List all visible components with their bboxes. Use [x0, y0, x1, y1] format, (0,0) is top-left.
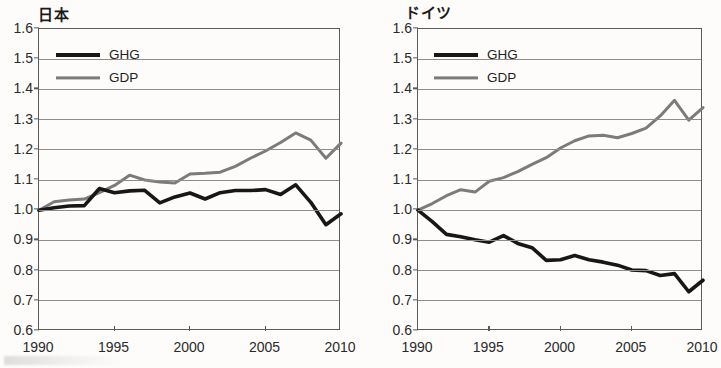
legend-item-ghg: GHG [56, 46, 140, 64]
y-axis-tick-label: 1.2 [380, 141, 412, 157]
y-axis-tick-label: 1.5 [380, 50, 412, 66]
chart-panel-germany: ドイツ GHGGDP 1.61.51.41.31.21.11.00.90.80.… [360, 0, 720, 368]
gridline [418, 240, 701, 241]
x-axis-tick-mark [560, 326, 561, 331]
y-axis-tick-label: 1.4 [1, 80, 33, 96]
series-line-ghg [418, 210, 703, 292]
y-axis-tick-mark [34, 88, 39, 89]
gridline [39, 270, 339, 271]
gridline [39, 240, 339, 241]
y-axis-tick-mark [34, 299, 39, 300]
y-axis-tick-label: 0.6 [1, 322, 33, 338]
y-axis-tick-mark [413, 118, 418, 119]
y-axis-tick-label: 0.9 [1, 231, 33, 247]
x-axis-tick-mark [631, 326, 632, 331]
legend-label-gdp: GDP [109, 71, 138, 85]
x-axis-tick-mark [189, 326, 190, 331]
legend-label-gdp: GDP [487, 71, 516, 85]
y-axis-tick-mark [34, 209, 39, 210]
y-axis-tick-label: 1.4 [380, 80, 412, 96]
y-axis-tick-label: 1.1 [380, 171, 412, 187]
y-axis-tick-mark [34, 269, 39, 270]
y-axis-tick-mark [34, 329, 39, 330]
y-axis-tick-mark [413, 269, 418, 270]
x-axis-tick-label: 2000 [544, 339, 575, 355]
x-axis-tick-mark [114, 326, 115, 331]
y-axis-tick-label: 1.0 [380, 201, 412, 217]
y-axis-tick-label: 1.3 [380, 111, 412, 127]
chart-panel-japan: 日本 GHGGDP 1.61.51.41.31.21.11.00.90.80.7… [0, 0, 360, 368]
gridline [418, 119, 701, 120]
gridline [39, 180, 339, 181]
gridline [418, 180, 701, 181]
x-axis-tick-label: 1990 [22, 339, 53, 355]
y-axis-tick-label: 0.9 [380, 231, 412, 247]
x-axis-tick-label: 1995 [98, 339, 129, 355]
y-axis-tick-mark [413, 209, 418, 210]
y-axis-tick-label: 1.3 [1, 111, 33, 127]
gridline [418, 300, 701, 301]
y-axis-tick-mark [413, 27, 418, 28]
y-axis-tick-mark [34, 58, 39, 59]
scan-artifact [4, 356, 124, 365]
y-axis-tick-label: 1.6 [380, 20, 412, 36]
y-axis-tick-label: 1.6 [1, 20, 33, 36]
x-axis-tick-mark [265, 326, 266, 331]
y-axis-tick-mark [413, 58, 418, 59]
y-axis-tick-mark [413, 148, 418, 149]
panel-title-germany: ドイツ [405, 1, 452, 22]
x-axis-tick-label: 2010 [686, 339, 717, 355]
x-axis-tick-label: 2005 [249, 339, 280, 355]
y-axis-tick-label: 0.6 [380, 322, 412, 338]
y-axis-tick-mark [34, 239, 39, 240]
legend-japan: GHGGDP [56, 46, 140, 92]
legend-item-gdp: GDP [434, 69, 518, 87]
y-axis-tick-label: 0.7 [380, 292, 412, 308]
y-axis-tick-mark [413, 299, 418, 300]
gridline [418, 149, 701, 150]
gridline [39, 119, 339, 120]
x-axis-tick-label: 2005 [615, 339, 646, 355]
panel-title-japan: 日本 [38, 3, 69, 24]
x-axis-tick-label: 1990 [401, 339, 432, 355]
y-axis-tick-label: 1.1 [1, 171, 33, 187]
y-axis-tick-label: 1.0 [1, 201, 33, 217]
y-axis-tick-mark [34, 27, 39, 28]
y-axis-tick-mark [413, 88, 418, 89]
series-line-ghg [39, 185, 341, 225]
legend-germany: GHGGDP [434, 46, 518, 92]
y-axis-tick-label: 1.2 [1, 141, 33, 157]
y-axis-tick-mark [413, 239, 418, 240]
y-axis-tick-label: 0.8 [380, 262, 412, 278]
x-axis-tick-label: 2010 [324, 339, 355, 355]
y-axis-tick-label: 0.7 [1, 292, 33, 308]
x-axis-tick-mark [488, 326, 489, 331]
y-axis-tick-mark [413, 329, 418, 330]
legend-label-ghg: GHG [487, 48, 518, 62]
y-axis-tick-mark [413, 178, 418, 179]
gridline [39, 149, 339, 150]
x-axis-tick-label: 2000 [173, 339, 204, 355]
y-axis-tick-label: 1.5 [1, 50, 33, 66]
gridline [39, 210, 339, 211]
series-line-gdp [418, 100, 703, 210]
figure-panels: 日本 GHGGDP 1.61.51.41.31.21.11.00.90.80.7… [0, 0, 721, 368]
legend-label-ghg: GHG [109, 48, 140, 62]
gridline [418, 210, 701, 211]
y-axis-tick-mark [34, 178, 39, 179]
legend-item-ghg: GHG [434, 46, 518, 64]
x-axis-tick-label: 1995 [473, 339, 504, 355]
legend-item-gdp: GDP [56, 69, 140, 87]
y-axis-tick-label: 0.8 [1, 262, 33, 278]
y-axis-tick-mark [34, 148, 39, 149]
gridline [418, 270, 701, 271]
gridline [39, 300, 339, 301]
series-line-gdp [39, 133, 341, 210]
y-axis-tick-mark [34, 118, 39, 119]
